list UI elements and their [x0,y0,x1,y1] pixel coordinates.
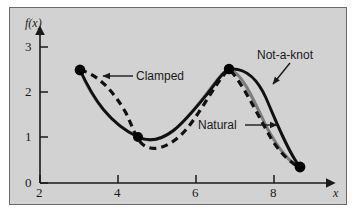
x-tick-label-8: 8 [270,185,277,201]
y-tick-label-0: 0 [25,175,32,191]
x-tick-label-2: 2 [36,185,43,201]
annotation-natural: Natural [198,118,237,132]
x-axis-label: x [333,186,338,201]
y-tick-label-2: 2 [25,84,32,100]
knot-point [133,132,143,142]
figure-container: 0 1 2 3 2 4 6 8 f(x) x Clamped Not-a-kno… [0,0,359,215]
not-a-knot-leader-line [273,63,290,84]
curve-not-a-knot [80,69,300,167]
annotation-not-a-knot: Not-a-knot [257,48,313,62]
knot-point [295,162,306,173]
x-tick-label-6: 6 [192,185,199,201]
x-tick-label-4: 4 [114,185,121,201]
knot-point [224,64,234,74]
spline-comparison-chart [0,0,359,215]
y-axis-ticks [40,47,48,183]
knot-point [75,65,86,76]
y-tick-label-1: 1 [25,129,32,145]
annotation-clamped: Clamped [136,69,184,83]
y-tick-label-3: 3 [25,39,32,55]
x-axis-ticks [40,175,274,183]
y-axis-label: f(x) [25,16,42,31]
